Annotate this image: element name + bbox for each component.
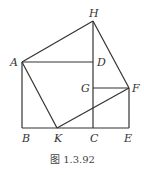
label-A: A <box>9 56 18 69</box>
point-labels: H A D G F B K C E <box>9 7 140 145</box>
label-C: C <box>90 132 99 145</box>
label-H: H <box>88 7 99 20</box>
segment-AH <box>22 21 93 62</box>
label-B: B <box>21 132 30 145</box>
segment-AK <box>22 62 57 128</box>
figure-caption: 图 1.3.92 <box>50 154 95 165</box>
label-K: K <box>53 132 63 145</box>
segments <box>22 21 129 128</box>
label-D: D <box>96 56 106 69</box>
segment-HF <box>93 21 129 88</box>
geometry-figure: H A D G F B K C E 图 1.3.92 <box>0 0 144 175</box>
label-G: G <box>81 82 90 95</box>
label-F: F <box>131 82 140 95</box>
label-E: E <box>123 132 132 145</box>
